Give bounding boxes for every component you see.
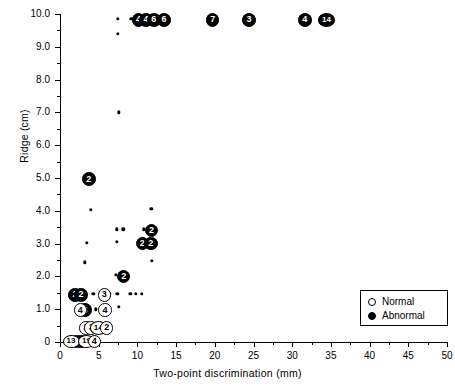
x-tick-major xyxy=(370,342,371,347)
y-tick-minor xyxy=(57,162,60,163)
x-tick-major xyxy=(447,342,448,347)
y-tick-minor xyxy=(57,129,60,130)
data-point-labeled: 14 xyxy=(318,13,335,27)
y-tick-major xyxy=(55,211,60,212)
x-tick-label: 20 xyxy=(200,350,230,361)
y-tick-minor xyxy=(57,260,60,261)
legend-label-abnormal: Abnormal xyxy=(382,310,425,321)
data-point-labeled: 4 xyxy=(98,303,112,317)
y-tick-label: 10.0 xyxy=(14,8,50,19)
x-tick-label: 35 xyxy=(316,350,346,361)
scatter-plot: 01.02.03.04.05.06.07.08.09.010.0 0510152… xyxy=(0,0,455,389)
x-tick-minor xyxy=(389,342,390,345)
x-tick-minor xyxy=(157,342,158,345)
y-tick-major xyxy=(55,145,60,146)
y-tick-minor xyxy=(57,326,60,327)
x-tick-major xyxy=(215,342,216,347)
data-point xyxy=(134,292,137,295)
x-tick-major xyxy=(408,342,409,347)
data-point xyxy=(92,292,95,295)
x-tick-major xyxy=(331,342,332,347)
data-point xyxy=(117,111,120,114)
y-tick-major xyxy=(55,309,60,310)
data-point-labeled: 4 xyxy=(74,303,88,317)
x-tick-label: 5 xyxy=(84,350,114,361)
x-tick-minor xyxy=(428,342,429,345)
x-tick-major xyxy=(176,342,177,347)
data-point xyxy=(150,207,153,210)
x-tick-major xyxy=(254,342,255,347)
x-tick-major xyxy=(137,342,138,347)
data-point-labeled: 2 xyxy=(82,172,96,186)
y-tick-major xyxy=(55,178,60,179)
data-point-labeled: 2 xyxy=(145,224,159,238)
y-tick-major xyxy=(55,112,60,113)
data-point-labeled: 13 xyxy=(63,335,80,349)
y-tick-major xyxy=(55,80,60,81)
x-tick-minor xyxy=(312,342,313,345)
x-tick-major xyxy=(60,342,61,347)
x-axis-label: Two-point discrimination (mm) xyxy=(0,367,455,379)
data-point-labeled: 2 xyxy=(117,270,131,284)
open-circle-icon xyxy=(368,298,376,306)
y-tick-minor xyxy=(57,63,60,64)
data-point xyxy=(122,228,125,231)
data-point-labeled: 6 xyxy=(157,13,171,27)
data-point-labeled: 4 xyxy=(298,13,312,27)
x-tick-minor xyxy=(195,342,196,345)
y-tick-minor xyxy=(57,293,60,294)
y-tick-major xyxy=(55,14,60,15)
y-axis-line xyxy=(60,14,61,342)
data-point xyxy=(115,240,118,243)
legend-label-normal: Normal xyxy=(382,296,414,307)
data-point xyxy=(89,208,92,211)
data-point xyxy=(116,292,119,295)
y-tick-minor xyxy=(57,227,60,228)
x-tick-label: 45 xyxy=(393,350,423,361)
x-tick-label: 0 xyxy=(45,350,75,361)
data-point xyxy=(83,261,86,264)
data-point xyxy=(140,292,143,295)
data-point-labeled: 2 xyxy=(144,237,158,251)
data-point xyxy=(115,228,118,231)
y-tick-label: 8.0 xyxy=(14,74,50,85)
data-point xyxy=(150,259,153,262)
data-point xyxy=(117,305,120,308)
x-tick-minor xyxy=(350,342,351,345)
data-point-labeled: 3 xyxy=(242,13,256,27)
legend-item-abnormal: Abnormal xyxy=(368,309,425,322)
data-point-labeled: 3 xyxy=(98,288,112,302)
y-tick-minor xyxy=(57,30,60,31)
x-tick-minor xyxy=(118,342,119,345)
x-tick-minor xyxy=(273,342,274,345)
data-point-labeled: 7 xyxy=(206,13,220,27)
x-tick-label: 25 xyxy=(239,350,269,361)
x-tick-minor xyxy=(234,342,235,345)
data-point xyxy=(129,292,132,295)
x-tick-label: 40 xyxy=(355,350,385,361)
x-tick-label: 10 xyxy=(122,350,152,361)
y-tick-minor xyxy=(57,194,60,195)
y-tick-label: 2.0 xyxy=(14,270,50,281)
data-point xyxy=(116,32,119,35)
y-tick-major xyxy=(55,47,60,48)
data-point xyxy=(94,307,97,310)
y-tick-label: 4.0 xyxy=(14,205,50,216)
x-tick-label: 15 xyxy=(161,350,191,361)
y-tick-label: 0 xyxy=(14,336,50,347)
y-axis-label: Ridge (cm) xyxy=(18,86,30,186)
data-point xyxy=(85,241,88,244)
y-tick-major xyxy=(55,244,60,245)
y-tick-major xyxy=(55,276,60,277)
y-tick-label: 1.0 xyxy=(14,303,50,314)
data-point-labeled: 2 xyxy=(74,288,88,302)
x-tick-label: 30 xyxy=(277,350,307,361)
y-tick-minor xyxy=(57,96,60,97)
y-tick-label: 9.0 xyxy=(14,41,50,52)
filled-circle-icon xyxy=(368,312,376,320)
legend-item-normal: Normal xyxy=(368,295,414,308)
x-tick-label: 50 xyxy=(432,350,455,361)
x-tick-major xyxy=(292,342,293,347)
data-point-labeled: 4 xyxy=(88,335,102,349)
data-point-labeled: 2 xyxy=(100,321,114,335)
